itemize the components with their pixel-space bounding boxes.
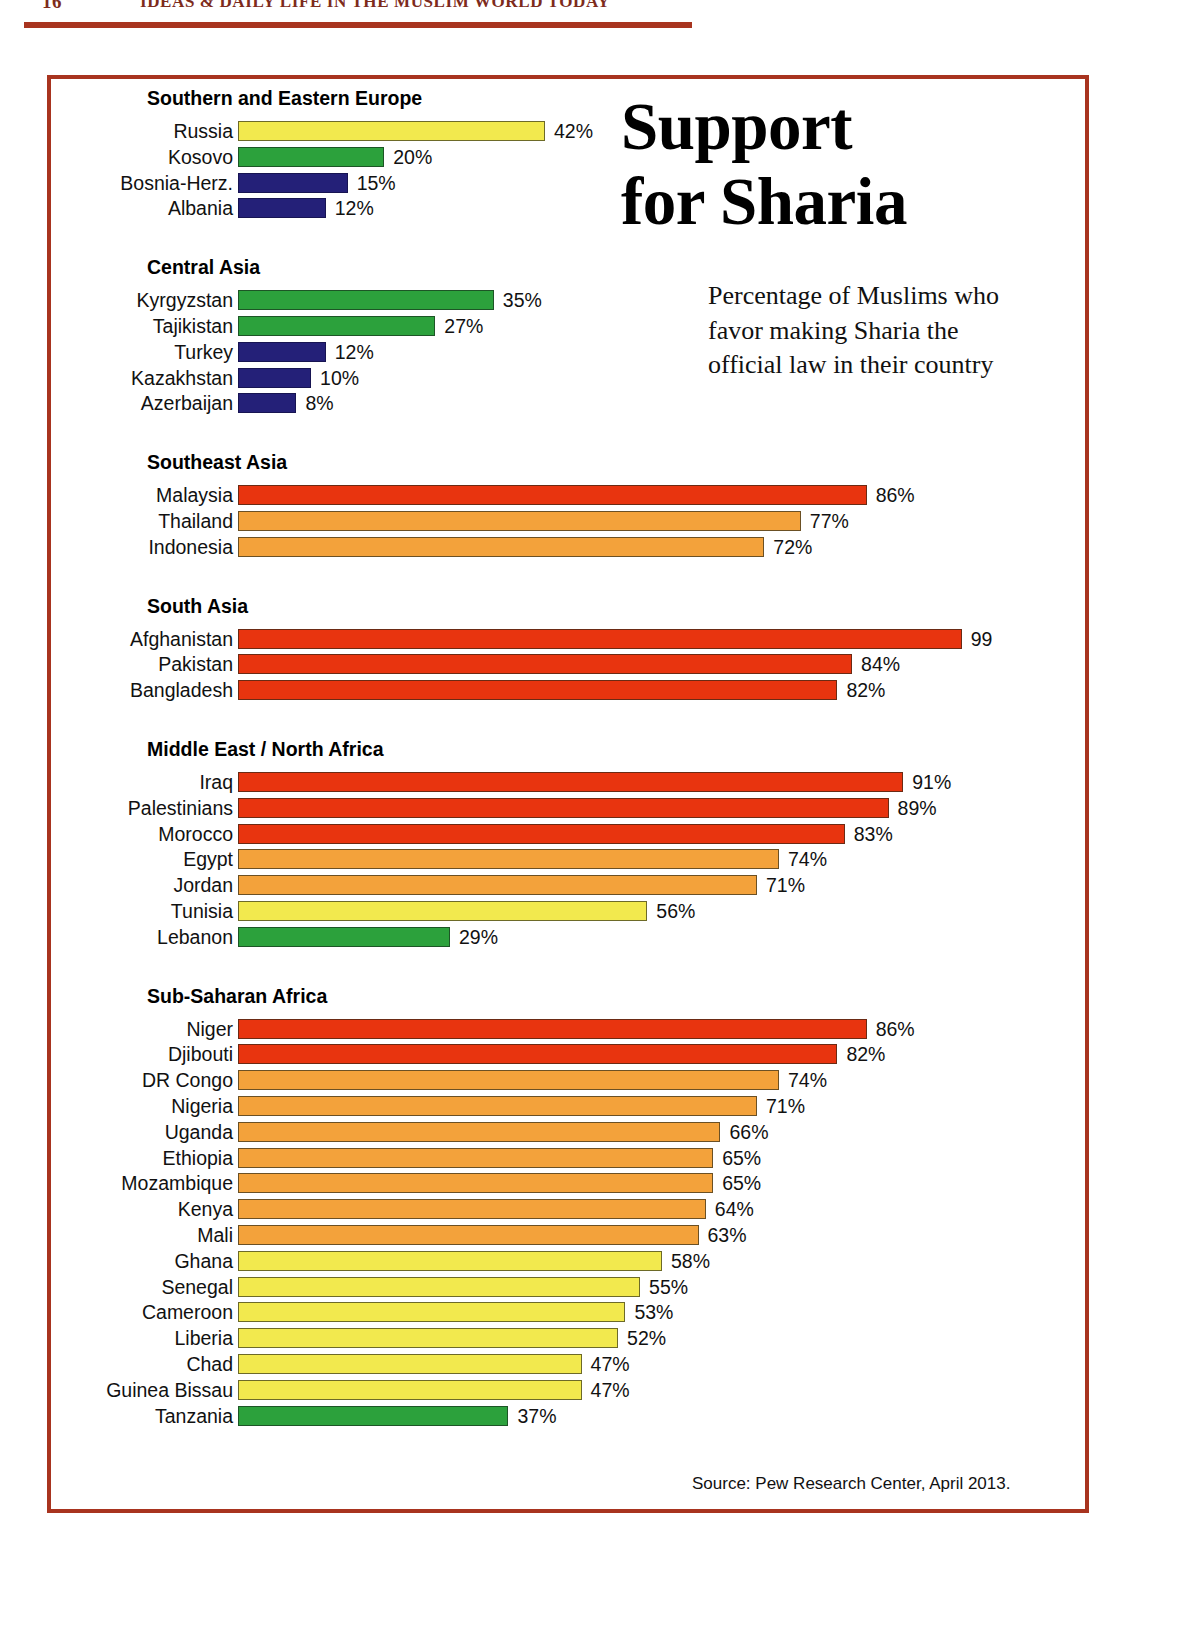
chart-bar [238,290,494,310]
chart-row: Afghanistan99 [51,626,1085,652]
chart-bar-value: 42% [554,118,593,144]
chart-bar-track: 99 [238,626,1029,652]
chart-bar-track: 65% [238,1170,1029,1196]
chart-bar-value: 47% [591,1351,630,1377]
chart-row: Cameroon53% [51,1299,1085,1325]
chart-bar-track: 83% [238,821,1029,847]
chart-bar [238,1354,582,1374]
chart-bar-value: 58% [671,1248,710,1274]
chart-bar [238,147,384,167]
chart-bar [238,680,837,700]
chart-bar [238,901,647,921]
chart-bar [238,1019,867,1039]
chart-row-label: Iraq [51,769,233,795]
chart-row-label: Chad [51,1351,233,1377]
chart-row: Bangladesh82% [51,677,1085,703]
chart-row: Niger86% [51,1016,1085,1042]
chart-row: Kyrgyzstan35% [51,287,1085,313]
chart-bar-track: 66% [238,1119,1029,1145]
chart-bar-value: 82% [846,1041,885,1067]
chart-bar-track: 86% [238,482,1029,508]
chart-row: Pakistan84% [51,651,1085,677]
chart-row-label: Albania [51,195,233,221]
chart-row-label: Guinea Bissau [51,1377,233,1403]
chart-bar [238,875,757,895]
running-head: 16 IDEAS & DAILY LIFE IN THE MUSLIM WORL… [0,0,1195,13]
chart-row-label: Indonesia [51,534,233,560]
chart-bar-value: 53% [634,1299,673,1325]
chart-bar [238,485,867,505]
chart-bar-track: 35% [238,287,1029,313]
chart-bar-value: 74% [788,1067,827,1093]
chart-bar [238,1302,625,1322]
chart-row-label: Mali [51,1222,233,1248]
chart-row-label: Djibouti [51,1041,233,1067]
chart-bar-track: 12% [238,195,1029,221]
chart-row-label: Nigeria [51,1093,233,1119]
chart-row: Uganda66% [51,1119,1085,1145]
chart-bar-track: 55% [238,1274,1029,1300]
chart-row: Russia42% [51,118,1085,144]
chart-bar-track: 8% [238,390,1029,416]
chart-row: Palestinians89% [51,795,1085,821]
chart-bar [238,1122,720,1142]
chart-bar [238,511,801,531]
chart-bar-track: 29% [238,924,1029,950]
chart-bar [238,1070,779,1090]
chart-bar [238,798,889,818]
chart-row: Djibouti82% [51,1041,1085,1067]
chart-bar-value: 52% [627,1325,666,1351]
chart-bar-value: 12% [335,195,374,221]
chart-bar-value: 71% [766,1093,805,1119]
chart-row: Ethiopia65% [51,1145,1085,1171]
chart-bar-track: 63% [238,1222,1029,1248]
chart-row: Liberia52% [51,1325,1085,1351]
chart-bar-value: 65% [722,1145,761,1171]
chart-bar [238,1225,699,1245]
chart-bar-track: 12% [238,339,1029,365]
chart-row-label: Malaysia [51,482,233,508]
chart-row-label: Thailand [51,508,233,534]
chart-row-label: Kyrgyzstan [51,287,233,313]
chart-bar-value: 63% [708,1222,747,1248]
chart-group-title: Middle East / North Africa [147,738,384,761]
chart-bar [238,537,764,557]
chart-row: Turkey12% [51,339,1085,365]
chart-bar [238,316,435,336]
chart-row: Thailand77% [51,508,1085,534]
chart-row: Nigeria71% [51,1093,1085,1119]
chart-row: Morocco83% [51,821,1085,847]
chart-row-label: Mozambique [51,1170,233,1196]
chart-bar-value: 29% [459,924,498,950]
chart-bar-value: 37% [517,1403,556,1429]
chart-bar-track: 52% [238,1325,1029,1351]
chart-group-title: Southeast Asia [147,451,287,474]
chart-group-title: South Asia [147,595,248,618]
figure-frame: Support for Sharia Percentage of Muslims… [47,75,1089,1513]
chart-bar [238,1251,662,1271]
running-head-title: IDEAS & DAILY LIFE IN THE MUSLIM WORLD T… [140,0,610,12]
chart-bar-value: 12% [335,339,374,365]
chart-row-label: Palestinians [51,795,233,821]
chart-bar-track: 37% [238,1403,1029,1429]
chart-bar-track: 71% [238,1093,1029,1119]
chart-row: Guinea Bissau47% [51,1377,1085,1403]
chart-row: Senegal55% [51,1274,1085,1300]
chart-row-label: Niger [51,1016,233,1042]
chart-bar [238,654,852,674]
chart-bar-track: 89% [238,795,1029,821]
chart-bar-track: 74% [238,1067,1029,1093]
chart-row-label: Tunisia [51,898,233,924]
chart-bar-track: 58% [238,1248,1029,1274]
chart-bar-track: 86% [238,1016,1029,1042]
chart-bar-value: 84% [861,651,900,677]
chart-bar [238,1096,757,1116]
page-folio: 16 [42,0,62,13]
chart-row-label: Turkey [51,339,233,365]
chart-row: Ghana58% [51,1248,1085,1274]
chart-bar-value: 15% [357,170,396,196]
chart-row: DR Congo74% [51,1067,1085,1093]
chart-group-title: Southern and Eastern Europe [147,87,422,110]
chart-row-label: Kosovo [51,144,233,170]
chart-group-title: Central Asia [147,256,260,279]
